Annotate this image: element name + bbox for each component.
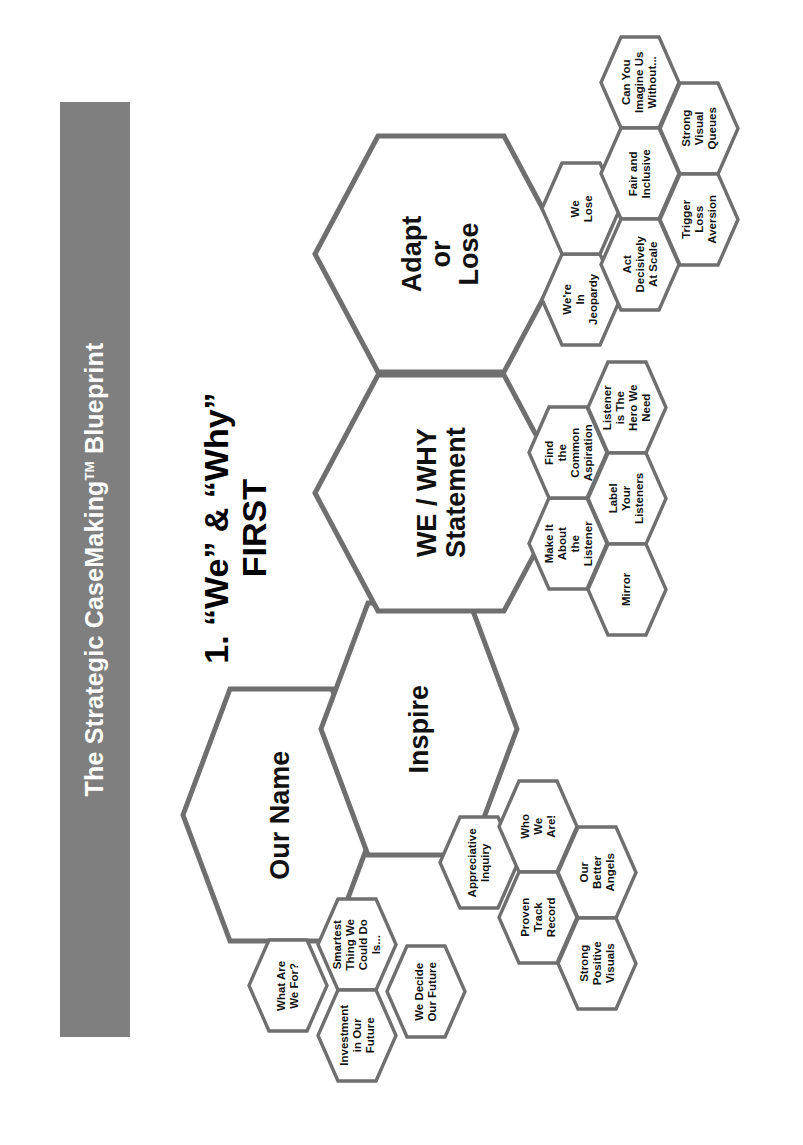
headline-line-2: FIRST bbox=[235, 392, 273, 663]
small-hex-trigger-loss-aversion[interactable]: Trigger Loss Aversion bbox=[658, 172, 740, 267]
headline-inner: 1. “We” & “Why” FIRST bbox=[197, 392, 273, 663]
small-hex-appreciative-inquiry-label: Appreciative Inquiry bbox=[466, 828, 492, 897]
small-hex-strong-positive-visuals[interactable]: Strong Positive Visuals bbox=[556, 916, 638, 1011]
small-hex-mirror-label: Mirror bbox=[621, 573, 634, 606]
small-hex-strong-positive-visuals-label: Strong Positive Visuals bbox=[578, 941, 617, 985]
headline: 1. “We” & “Why” FIRST bbox=[175, 378, 295, 678]
small-hex-smartest-thing-label: Smartest Thing We Could Do Is... bbox=[331, 919, 383, 971]
main-hex-we-why-statement-label: WE / WHY Statement bbox=[412, 428, 469, 559]
small-hex-act-decisively-at-scale-label: Act Decisively At Scale bbox=[621, 236, 660, 292]
title-banner-text: The Strategic CaseMakingTM Blueprint bbox=[81, 343, 110, 797]
small-hex-investment-in-our-future-label: Investment in Our Future bbox=[338, 1005, 377, 1066]
small-hex-can-you-imagine-us-without-label: Can You Imagine Us Without... bbox=[621, 52, 660, 113]
main-hex-adapt-or-lose[interactable]: Adapt or Lose bbox=[312, 133, 570, 375]
small-hex-label-your-listeners[interactable]: Label Your Listeners bbox=[586, 451, 668, 546]
main-hex-our-name-label: Our Name bbox=[267, 750, 296, 879]
small-hex-listener-is-the-hero-label: Listener is The Hero We Need bbox=[601, 384, 653, 430]
trademark-symbol: TM bbox=[82, 461, 97, 480]
title-main: The Strategic CaseMaking bbox=[81, 480, 109, 796]
small-hex-we-decide-our-future-label: We Decide Our Future bbox=[413, 962, 439, 1021]
small-hex-strong-visual-queues-label: Strong Visual Queues bbox=[680, 107, 719, 149]
small-hex-label-your-listeners-label: Label Your Listeners bbox=[608, 473, 647, 524]
small-hex-listener-is-the-hero[interactable]: Listener is The Hero We Need bbox=[586, 360, 668, 455]
small-hex-were-in-jeopardy-label: We're In Jeopardy bbox=[562, 274, 601, 325]
small-hex-we-decide-our-future[interactable]: We Decide Our Future bbox=[385, 944, 467, 1039]
headline-line-1: 1. “We” & “Why” bbox=[197, 392, 235, 663]
small-hex-trigger-loss-aversion-label: Trigger Loss Aversion bbox=[680, 195, 719, 244]
small-hex-proven-track-record-label: Proven Track Record bbox=[519, 898, 558, 938]
small-hex-who-we-are-label: Who We Are! bbox=[519, 814, 558, 839]
title-suffix: Blueprint bbox=[81, 343, 109, 455]
diagram-canvas: The Strategic CaseMakingTM Blueprint 1. … bbox=[0, 0, 803, 1145]
small-hex-our-better-angels-label: Our Better Angels bbox=[578, 853, 617, 891]
main-hex-adapt-or-lose-label: Adapt or Lose bbox=[398, 216, 484, 293]
small-hex-we-lose-label: We Lose bbox=[568, 195, 594, 222]
small-hex-what-are-we-for-label: What Are We For? bbox=[275, 960, 301, 1010]
small-hex-our-better-angels[interactable]: Our Better Angels bbox=[556, 825, 638, 920]
small-hex-fair-and-inclusive-label: Fair and Inclusive bbox=[627, 149, 653, 198]
small-hex-strong-visual-queues[interactable]: Strong Visual Queues bbox=[658, 81, 740, 176]
main-hex-inspire-label: Inspire bbox=[405, 685, 434, 774]
title-banner: The Strategic CaseMakingTM Blueprint bbox=[60, 102, 130, 1037]
small-hex-mirror[interactable]: Mirror bbox=[586, 542, 668, 637]
